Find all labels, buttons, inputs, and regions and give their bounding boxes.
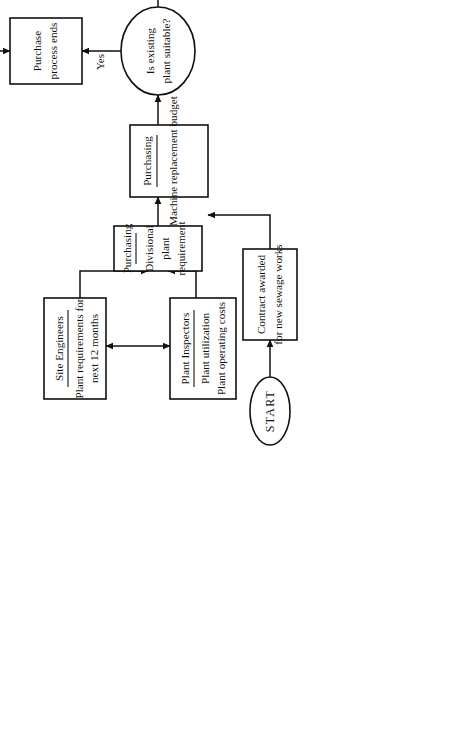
suitable-line1: Is existing <box>144 27 156 74</box>
contract-line1: Contract awarded <box>255 254 267 334</box>
site-engineers-heading: Site Engineers <box>53 316 65 381</box>
node-purchase-process-ends[interactable]: Purchase process ends <box>10 18 82 84</box>
procends-line2: process ends <box>47 23 59 80</box>
node-divisional-plant-requirement[interactable]: Purchasing Divisional plant requirement <box>114 221 202 276</box>
edge-siteeng-to-divplant <box>80 271 148 298</box>
node-contract-awarded[interactable]: Contract awarded for new sewage works <box>243 244 297 344</box>
node-site-engineers[interactable]: Site Engineers Plant requirements for ne… <box>44 298 106 399</box>
budget-line1: Machine replacement budget <box>167 95 179 226</box>
suitable-line2: plant suitable? <box>160 19 172 84</box>
plant-inspectors-line2: Plant operating costs <box>215 302 227 395</box>
edge-otherapps-no <box>0 0 10 51</box>
suitable-ellipse <box>121 7 195 95</box>
node-machine-replacement-budget[interactable]: Purchasing Machine replacement budget <box>130 95 208 226</box>
divplant-line2: plant <box>159 236 171 259</box>
plant-inspectors-line1: Plant utilization <box>199 313 211 385</box>
procends-line1: Purchase <box>31 31 43 71</box>
plant-inspectors-heading: Plant Inspectors <box>179 313 191 385</box>
flowchart-canvas: START Contract awarded for new sewage wo… <box>0 0 463 732</box>
site-engineers-line2: next 12 months <box>88 314 100 383</box>
contract-line2: for new sewage works <box>272 244 284 344</box>
budget-heading: Purchasing <box>141 136 153 186</box>
contract-rect <box>243 249 297 340</box>
label-suitable-yes: Yes <box>94 54 106 70</box>
edge-contract-to-budget <box>208 215 270 249</box>
node-start[interactable]: START <box>250 377 290 445</box>
divplant-line3: requirement <box>175 221 187 276</box>
divplant-line1: Divisional <box>143 225 155 272</box>
node-decision-plant-suitable[interactable]: Is existing plant suitable? <box>121 7 195 95</box>
divplant-heading: Purchasing <box>121 223 133 273</box>
start-label: START <box>263 390 277 432</box>
rotated-layer: START Contract awarded for new sewage wo… <box>0 0 392 445</box>
node-plant-inspectors[interactable]: Plant Inspectors Plant utilization Plant… <box>170 298 236 399</box>
site-engineers-line1: Plant requirements for <box>73 298 85 398</box>
flowchart-svg: START Contract awarded for new sewage wo… <box>0 0 463 732</box>
